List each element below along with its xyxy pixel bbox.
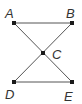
geometry-diagram: A B C D E [0, 0, 82, 104]
label-e: E [64, 89, 73, 104]
point-d [12, 80, 16, 84]
point-b [70, 21, 74, 25]
label-b: B [66, 6, 75, 21]
label-d: D [5, 87, 14, 102]
point-a [12, 21, 16, 25]
point-c [41, 51, 45, 55]
label-c: C [52, 47, 62, 62]
point-e [70, 80, 74, 84]
label-a: A [4, 6, 14, 21]
